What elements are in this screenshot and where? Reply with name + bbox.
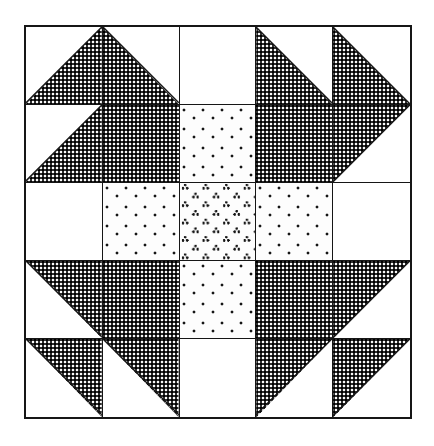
patch-r0c3 — [256, 27, 333, 105]
patch-fill-dots — [256, 183, 332, 260]
patch-r4c1 — [103, 339, 180, 417]
patch-fill-plain — [180, 27, 256, 104]
patch-fill-dark — [256, 339, 332, 417]
patch-r4c3 — [256, 339, 333, 417]
patch-fill-dark — [26, 105, 102, 182]
patch-fill-dark — [103, 27, 179, 104]
patch-r0c2 — [180, 27, 257, 105]
patch-fill-dark — [333, 105, 410, 182]
patch-r4c4 — [333, 339, 410, 417]
quilt-figure — [0, 0, 434, 446]
patch-fill-plain — [333, 183, 410, 260]
patch-fill-dark — [256, 27, 332, 104]
patch-r0c0 — [26, 27, 103, 105]
patch-fill-dots — [103, 183, 179, 260]
patch-r2c1 — [103, 183, 180, 261]
patch-r1c1 — [103, 105, 180, 183]
patch-r3c3 — [256, 261, 333, 339]
patch-r3c4 — [333, 261, 410, 339]
patch-r2c2 — [180, 183, 257, 261]
patch-r1c4 — [333, 105, 410, 183]
patch-fill-dark — [333, 339, 410, 417]
patch-r2c4 — [333, 183, 410, 261]
patch-fill-dark — [333, 261, 410, 338]
patch-fill-dark — [333, 27, 410, 104]
patch-fill-dark — [103, 339, 179, 417]
patch-fill-plain — [180, 339, 256, 417]
patch-r1c0 — [26, 105, 103, 183]
patch-r3c1 — [103, 261, 180, 339]
patch-fill-dark — [103, 105, 179, 182]
patch-fill-dots — [180, 261, 256, 338]
patch-fill-plain — [26, 183, 102, 260]
patch-r3c0 — [26, 261, 103, 339]
patch-r0c4 — [333, 27, 410, 105]
patch-r3c2 — [180, 261, 257, 339]
patch-r4c0 — [26, 339, 103, 417]
patch-fill-dark — [26, 261, 102, 338]
quilt-grid — [26, 27, 410, 417]
patch-r2c3 — [256, 183, 333, 261]
quilt-block-frame — [24, 25, 412, 419]
patch-fill-dark — [256, 105, 332, 182]
patch-fill-clover — [180, 183, 256, 260]
patch-r1c3 — [256, 105, 333, 183]
patch-r1c2 — [180, 105, 257, 183]
patch-fill-dots — [180, 105, 256, 182]
patch-r4c2 — [180, 339, 257, 417]
patch-r0c1 — [103, 27, 180, 105]
patch-fill-dark — [103, 261, 179, 338]
patch-fill-dark — [26, 27, 102, 104]
patch-fill-dark — [256, 261, 332, 338]
patch-r2c0 — [26, 183, 103, 261]
patch-fill-dark — [26, 339, 102, 417]
